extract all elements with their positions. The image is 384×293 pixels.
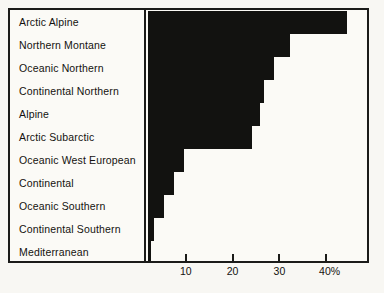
bar: [148, 195, 164, 218]
axis-tick-label: 10: [180, 265, 192, 277]
axis-tick-label: 40%: [319, 265, 340, 277]
step-bar-chart: Arctic AlpineNorthern MontaneOceanic Nor…: [0, 0, 384, 293]
category-label: Continental Southern: [19, 218, 121, 241]
bar: [148, 103, 260, 126]
axis-tick: [232, 254, 234, 261]
plot-frame: Arctic AlpineNorthern MontaneOceanic Nor…: [8, 8, 369, 263]
category-label: Arctic Subarctic: [19, 126, 94, 149]
bar: [148, 172, 174, 195]
value-axis: 10203040%: [8, 261, 369, 293]
bar: [148, 57, 274, 80]
value-axis-line: [8, 261, 369, 263]
category-label: Oceanic West European: [19, 149, 136, 172]
category-label: Continental Northern: [19, 80, 119, 103]
category-label: Northern Montane: [19, 34, 106, 57]
axis-tick-label: 30: [274, 265, 286, 277]
category-label: Continental: [19, 172, 74, 195]
axis-tick: [278, 254, 280, 261]
bar: [148, 11, 347, 34]
bar: [148, 149, 184, 172]
plot-area: [148, 10, 367, 261]
bar: [148, 126, 252, 149]
bar: [148, 218, 154, 241]
axis-tick-label: 20: [227, 265, 239, 277]
bar: [148, 241, 151, 261]
category-axis: Arctic AlpineNorthern MontaneOceanic Nor…: [10, 10, 146, 261]
bar: [148, 34, 290, 57]
bar: [148, 80, 264, 103]
category-label: Oceanic Southern: [19, 195, 105, 218]
category-label: Arctic Alpine: [19, 11, 79, 34]
axis-tick: [325, 254, 327, 261]
category-label: Oceanic Northern: [19, 57, 104, 80]
category-label: Alpine: [19, 103, 49, 126]
axis-tick: [185, 254, 187, 261]
